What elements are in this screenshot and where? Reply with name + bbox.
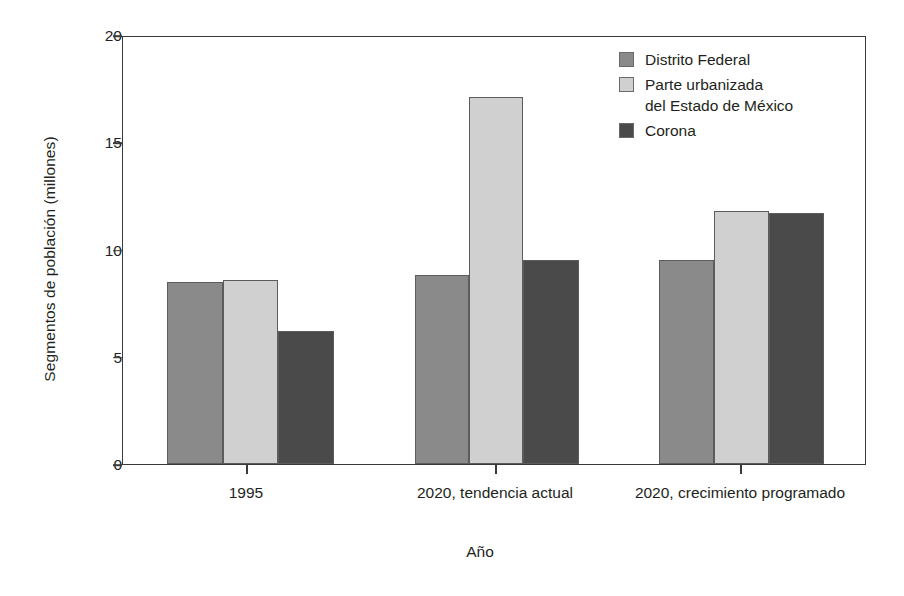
x-axis-title: Año (466, 543, 494, 561)
x-tick-label-1995: 1995 (126, 482, 366, 503)
plot-area: Distrito Federal Parte urbanizada del Es… (122, 36, 866, 465)
bar-2020-tendencia-parte-urbanizada (469, 97, 523, 464)
legend: Distrito Federal Parte urbanizada del Es… (619, 49, 869, 145)
legend-label-corona: Corona (645, 120, 696, 141)
legend-swatch-icon-distrito-federal (619, 52, 634, 67)
y-axis-title: Segmentos de población (millones) (41, 59, 59, 459)
legend-swatch-icon-parte-urbanizada (619, 77, 634, 92)
bar-2020-tendencia-corona (523, 260, 579, 464)
bar-2020-crecimiento-corona (769, 213, 824, 464)
y-tick-mark-15 (113, 142, 122, 144)
x-axis-tick-labels: 1995 2020, tendencia actual 2020, crecim… (122, 482, 866, 542)
x-tick-mark-2020-crecimiento (740, 465, 742, 474)
y-tick-mark-10 (113, 250, 122, 252)
legend-label-distrito-federal: Distrito Federal (645, 49, 750, 70)
x-axis-title-wrapper: Año (0, 543, 904, 561)
bar-2020-crecimiento-parte-urbanizada (714, 211, 769, 464)
x-tick-mark-1995 (246, 465, 248, 474)
bar-2020-tendencia-distrito-federal (415, 275, 469, 464)
y-tick-mark-0 (113, 464, 122, 466)
y-tick-mark-20 (113, 35, 122, 37)
bar-chart-figure: Segmentos de población (millones) 20 15 … (0, 0, 904, 596)
x-tick-label-2020-tendencia: 2020, tendencia actual (375, 482, 615, 503)
y-tick-mark-5 (113, 357, 122, 359)
x-axis-tick-marks (122, 465, 866, 475)
legend-label-parte-urbanizada: Parte urbanizada del Estado de México (645, 74, 793, 116)
bar-1995-distrito-federal (167, 282, 223, 464)
legend-item-parte-urbanizada: Parte urbanizada del Estado de México (619, 74, 869, 116)
legend-item-distrito-federal: Distrito Federal (619, 49, 869, 70)
x-tick-mark-2020-tendencia (495, 465, 497, 474)
bar-2020-crecimiento-distrito-federal (659, 260, 714, 464)
x-tick-label-2020-crecimiento: 2020, crecimiento programado (620, 482, 860, 503)
legend-item-corona: Corona (619, 120, 869, 141)
bar-1995-corona (278, 331, 334, 464)
bar-1995-parte-urbanizada (223, 280, 278, 465)
y-axis-tick-marks (113, 36, 122, 465)
legend-swatch-icon-corona (619, 123, 634, 138)
